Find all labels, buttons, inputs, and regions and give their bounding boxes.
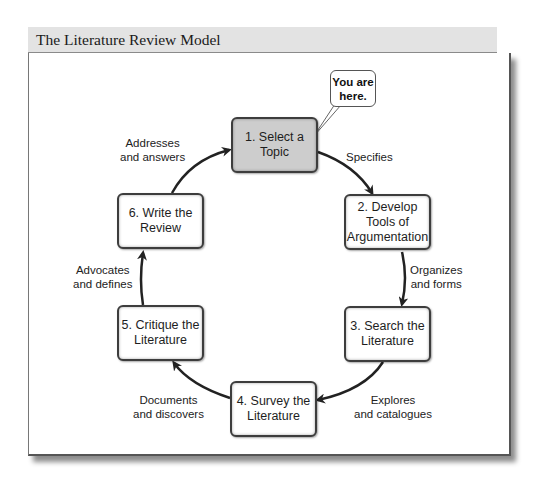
edge-label-addresses: Addresses and answers <box>120 136 185 164</box>
step-3-line-1: 3. Search the <box>350 319 424 334</box>
edge-label-line: Addresses <box>120 136 185 150</box>
edge-label-line: Explores <box>354 393 432 407</box>
edge-label-line: Advocates <box>73 263 132 277</box>
edge-label-advocates: Advocates and defines <box>73 263 132 291</box>
edge-label-line: Specifies <box>346 150 393 164</box>
step-1-line-1: 1. Select a <box>245 130 304 145</box>
edge-label-line: and answers <box>120 150 185 164</box>
step-5-critique-literature: 5. Critique the Literature <box>117 305 204 361</box>
edge-label-line: Documents <box>133 393 204 407</box>
step-3-search-literature: 3. Search the Literature <box>344 306 431 362</box>
edge-label-organizes: Organizes and forms <box>410 263 462 291</box>
step-6-write-review: 6. Write the Review <box>117 193 204 249</box>
edge-label-documents: Documents and discovers <box>133 393 204 421</box>
edge-label-specifies: Specifies <box>346 150 393 164</box>
callout-line-1: You are <box>332 75 373 89</box>
step-4-line-1: 4. Survey the <box>237 394 311 409</box>
edge-label-line: Organizes <box>410 263 462 277</box>
step-4-survey-literature: 4. Survey the Literature <box>230 381 317 437</box>
step-2-line-1: 2. Develop <box>347 200 428 215</box>
figure-title: The Literature Review Model <box>36 31 221 49</box>
step-6-line-1: 6. Write the <box>129 206 193 221</box>
step-4-line-2: Literature <box>237 409 311 424</box>
step-6-line-2: Review <box>129 221 193 236</box>
step-2-line-2: Tools of <box>347 215 428 230</box>
figure-header: The Literature Review Model <box>28 27 497 53</box>
step-1-select-topic: 1. Select a Topic <box>231 117 318 173</box>
edge-label-explores: Explores and catalogues <box>354 393 432 421</box>
step-1-line-2: Topic <box>245 145 304 160</box>
step-3-line-2: Literature <box>350 334 424 349</box>
callout-line-2: here. <box>332 89 373 103</box>
edge-label-line: and forms <box>410 277 462 291</box>
you-are-here-callout: You are here. <box>330 70 376 107</box>
edge-label-line: and discovers <box>133 407 204 421</box>
edge-label-line: and defines <box>73 277 132 291</box>
edge-label-line: and catalogues <box>354 407 432 421</box>
step-5-line-2: Literature <box>122 333 200 348</box>
step-2-develop-tools: 2. Develop Tools of Argumentation <box>344 194 431 250</box>
step-2-line-3: Argumentation <box>347 230 428 245</box>
step-5-line-1: 5. Critique the <box>122 318 200 333</box>
